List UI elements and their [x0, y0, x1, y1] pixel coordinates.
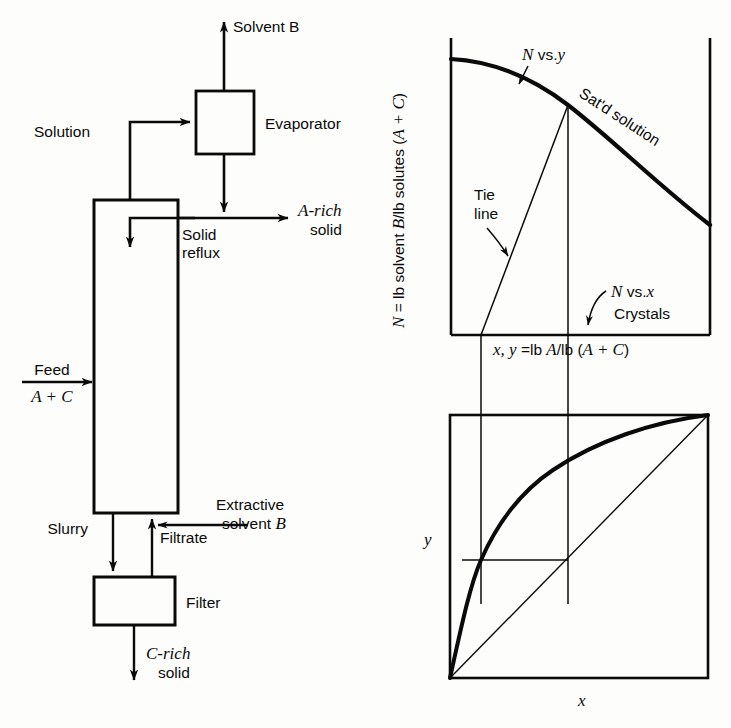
stream-extractive-solvent-label-2: solvent B — [222, 514, 286, 533]
xy-chart-xlabel: x — [577, 691, 586, 710]
stream-solid-reflux-label-2: reflux — [182, 244, 220, 261]
annotation-tie-line-1: Tie — [474, 186, 495, 203]
annotation-crystals: Crystals — [614, 305, 670, 322]
unit-evaporator-label: Evaporator — [265, 115, 341, 132]
stream-a-rich-solid-label-1: A-rich — [297, 201, 341, 220]
annotation-tie-line-2: line — [474, 205, 498, 222]
xy-chart-ylabel: y — [422, 530, 432, 549]
stream-c-rich-solid-label-2: solid — [158, 664, 190, 681]
unit-filter-label: Filter — [186, 594, 220, 611]
stream-solution-label: Solution — [34, 123, 90, 140]
stream-a-rich-solid-label-2: solid — [310, 221, 342, 238]
stream-c-rich-solid-label-1: C-rich — [146, 644, 190, 663]
n-chart-xlabel: x, y =lb A/lb (A + C) — [492, 340, 629, 359]
stream-solvent-b-label: Solvent B — [233, 18, 299, 35]
annotation-n-vs-y: N vs.y — [521, 45, 565, 64]
annotation-n-vs-x: N vs.x — [610, 282, 654, 301]
figure-root: Solvent B Evaporator Solution A-rich sol… — [0, 0, 731, 728]
stream-filtrate-label: Filtrate — [160, 529, 207, 546]
stream-feed-label-2: A + C — [30, 387, 73, 406]
n-chart-ylabel: N = lb solvent B/lb solutes (A + C) — [389, 93, 408, 329]
stream-slurry-label: Slurry — [48, 520, 89, 537]
stream-solid-reflux-label-1: Solid — [182, 226, 216, 243]
stream-extractive-solvent-label-1: Extractive — [216, 496, 284, 513]
stream-feed-label-1: Feed — [34, 361, 69, 378]
